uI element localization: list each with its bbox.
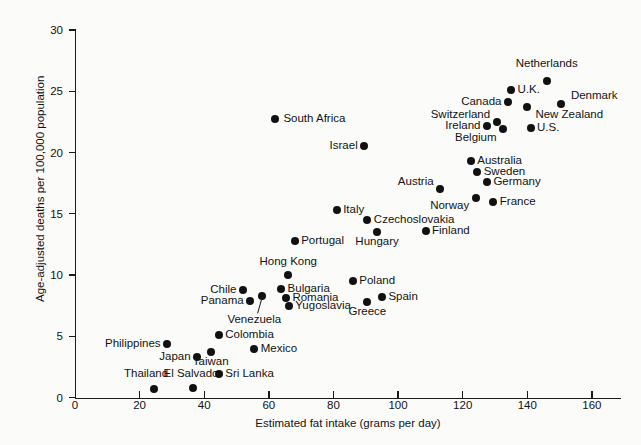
point-label: Taiwan: [193, 356, 229, 368]
data-point: [473, 168, 481, 176]
point-label: Poland: [359, 275, 395, 287]
data-point: [527, 124, 535, 132]
x-tick-mark: [204, 391, 205, 398]
x-tick-mark: [527, 391, 528, 398]
point-label: Ireland: [445, 120, 480, 132]
plot-area: 051015202530 020406080100120140160 Age-a…: [0, 0, 641, 445]
point-label: Finland: [432, 225, 470, 237]
x-tick-mark: [139, 391, 140, 398]
y-tick-mark: [69, 152, 76, 153]
data-point: [271, 115, 279, 123]
point-label: Italy: [343, 204, 364, 216]
point-label: South Africa: [283, 114, 345, 126]
data-point: [360, 142, 368, 150]
point-label: Norway: [430, 201, 469, 213]
data-point: [277, 285, 285, 293]
data-point: [189, 384, 197, 392]
data-point: [349, 277, 357, 285]
x-tick-mark: [462, 391, 463, 398]
point-label: Panama: [201, 295, 244, 307]
x-tick-label: 140: [507, 399, 547, 411]
x-tick-mark: [591, 391, 592, 398]
point-label: Hungary: [355, 236, 398, 248]
x-axis-title: Estimated fat intake (grams per day): [75, 417, 621, 429]
point-label: Germany: [493, 176, 540, 188]
data-point: [422, 227, 430, 235]
point-label: Yugoslavia: [295, 300, 351, 312]
data-point: [333, 206, 341, 214]
point-label: El Salvador: [164, 369, 223, 381]
point-label: Denmark: [571, 90, 618, 102]
point-label: Japan: [159, 351, 190, 363]
data-point: [239, 286, 247, 294]
point-label: Belgium: [455, 132, 497, 144]
data-point: [493, 118, 501, 126]
point-label: Philippines: [105, 338, 161, 350]
data-point: [483, 122, 491, 130]
data-point: [543, 77, 551, 85]
y-tick-mark: [69, 213, 76, 214]
x-tick-label: 60: [249, 399, 289, 411]
x-tick-mark: [333, 391, 334, 398]
x-tick-label: 80: [313, 399, 353, 411]
point-label: U.K.: [518, 84, 540, 96]
point-label: Greece: [349, 306, 387, 318]
y-tick-mark: [69, 274, 76, 275]
data-point: [504, 98, 512, 106]
data-point: [507, 86, 515, 94]
data-point: [363, 216, 371, 224]
data-point: [163, 340, 171, 348]
x-tick-label: 100: [378, 399, 418, 411]
x-tick-label: 20: [120, 399, 160, 411]
data-point: [150, 385, 158, 393]
point-label: New Zealand: [535, 109, 603, 121]
y-tick-label: 30: [33, 24, 63, 36]
point-label: Mexico: [261, 343, 297, 355]
point-label: Hong Kong: [259, 256, 317, 268]
point-label: Netherlands: [516, 59, 578, 71]
point-label: Portugal: [301, 235, 344, 247]
data-point: [378, 293, 386, 301]
data-point: [291, 237, 299, 245]
point-label: Colombia: [225, 329, 274, 341]
scatter-plot-figure: 051015202530 020406080100120140160 Age-a…: [0, 0, 641, 445]
data-point: [472, 194, 480, 202]
x-tick-mark: [397, 391, 398, 398]
x-tick-label: 0: [55, 399, 95, 411]
y-tick-mark: [69, 91, 76, 92]
data-point: [483, 178, 491, 186]
data-point: [557, 100, 565, 108]
point-label: Spain: [388, 291, 417, 303]
data-point: [436, 185, 444, 193]
data-point: [215, 331, 223, 339]
y-tick-label: 5: [33, 330, 63, 342]
y-tick-mark: [69, 336, 76, 337]
data-point: [523, 103, 531, 111]
x-tick-label: 160: [572, 399, 612, 411]
y-axis-line: [75, 30, 76, 399]
point-label: Canada: [461, 97, 501, 109]
data-point: [284, 271, 292, 279]
point-label: Israel: [330, 141, 358, 153]
point-label: Thailand: [124, 369, 168, 381]
point-label: Austria: [398, 176, 434, 188]
point-label: Sri Lanka: [225, 369, 274, 381]
point-label: France: [500, 196, 536, 208]
data-point: [250, 345, 258, 353]
x-tick-mark: [268, 391, 269, 398]
data-point: [467, 157, 475, 165]
x-tick-label: 40: [184, 399, 224, 411]
data-point: [246, 297, 254, 305]
point-label: Venezuela: [227, 315, 281, 327]
data-point: [489, 198, 497, 206]
x-tick-label: 120: [443, 399, 483, 411]
y-axis-title: Age-adjusted deaths per 100,000 populati…: [34, 102, 46, 302]
point-label: U.S.: [537, 122, 559, 134]
y-tick-mark: [69, 29, 76, 30]
data-point: [499, 125, 507, 133]
